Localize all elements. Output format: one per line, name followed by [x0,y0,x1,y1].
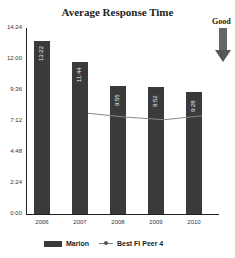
legend: Marion Best FI Peer 4 [44,240,163,247]
legend-bar-swatch [44,241,62,247]
legend-line-label: Best FI Peer 4 [117,240,163,247]
legend-bar-label: Marion [66,240,89,247]
peer-line [0,0,235,258]
legend-line-swatch [99,243,113,244]
